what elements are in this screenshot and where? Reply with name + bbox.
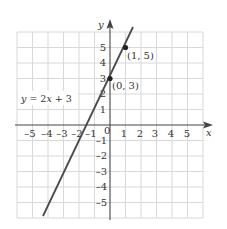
equation-label: y = 2x + 3 (20, 93, 72, 104)
svg-text:–2: –2 (96, 150, 107, 161)
svg-text:–4: –4 (96, 181, 107, 192)
svg-text:–3: –3 (96, 166, 107, 177)
svg-text:1: 1 (100, 104, 106, 115)
svg-text:3: 3 (100, 73, 106, 84)
svg-text:–3: –3 (56, 128, 67, 139)
svg-text:5: 5 (100, 42, 106, 53)
point-0-3-label: (0, 3) (112, 80, 139, 91)
svg-text:–4: –4 (41, 128, 52, 139)
point-1-5-label: (1, 5) (127, 50, 154, 61)
svg-text:1: 1 (121, 128, 127, 139)
axes (15, 27, 208, 220)
svg-text:–1: –1 (96, 135, 107, 146)
line-y-equals-2x-plus-3 (43, 27, 133, 216)
svg-text:4: 4 (100, 57, 106, 68)
coordinate-plane: x y –5 –4 –3 –2 –1 1 2 3 4 5 0 5 4 3 2 1… (0, 0, 227, 229)
svg-text:4: 4 (168, 128, 174, 139)
svg-text:2: 2 (137, 128, 143, 139)
svg-text:–5: –5 (96, 197, 107, 208)
x-axis-label: x (206, 127, 212, 138)
svg-text:–5: –5 (24, 128, 35, 139)
y-axis-label: y (97, 19, 104, 30)
svg-text:3: 3 (152, 128, 158, 139)
svg-text:5: 5 (184, 128, 190, 139)
